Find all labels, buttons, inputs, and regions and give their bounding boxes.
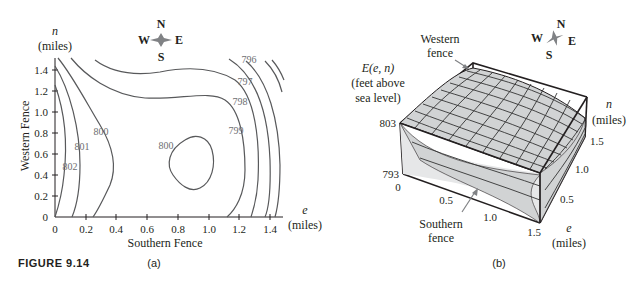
svg-text:W: W xyxy=(531,31,543,45)
n-tick-label: 0.5 xyxy=(560,193,574,205)
x-axis-title: Southern Fence xyxy=(128,236,203,250)
n-unit: (miles) xyxy=(592,113,626,127)
svg-text:S: S xyxy=(546,48,553,62)
x-variable: e xyxy=(302,203,308,217)
e-variable: e xyxy=(566,221,572,235)
contour-label-798: 798 xyxy=(233,96,248,107)
x-tick-label: 0.6 xyxy=(140,223,154,235)
x-tick-label: 1.2 xyxy=(232,223,246,235)
panel-b-label: (b) xyxy=(492,257,505,269)
svg-text:W: W xyxy=(138,33,150,47)
western-fence-label-line2: fence xyxy=(427,46,453,60)
y-tick-label: 1.4 xyxy=(34,64,48,76)
z-tick-max: 803 xyxy=(380,117,397,129)
svg-text:N: N xyxy=(157,17,166,31)
contour-label-796: 796 xyxy=(242,54,257,65)
svg-text:E: E xyxy=(568,34,576,48)
western-fence-label: Western xyxy=(420,32,459,46)
surface-plot: E(e, n) (feet above sea level) 803 793 0… xyxy=(351,17,626,250)
n-tick-label: 1.5 xyxy=(590,135,604,147)
compass-rose-icon: N S W E xyxy=(531,17,576,62)
y-tick-label: 0.4 xyxy=(34,169,48,181)
contour-798 xyxy=(95,60,258,217)
svg-text:S: S xyxy=(158,50,165,64)
contour-800-left xyxy=(58,58,114,217)
e-tick-label: 1.0 xyxy=(483,211,497,223)
y-tick-label: 0 xyxy=(43,211,49,223)
contour-799-main xyxy=(71,58,245,217)
z-axis-title: E(e, n) xyxy=(361,61,395,75)
figure-label: FIGURE 9.14 xyxy=(18,257,90,269)
contour-label-797: 797 xyxy=(238,76,253,87)
y-variable: n xyxy=(52,24,58,38)
southern-fence-label: Southern xyxy=(419,217,462,231)
z-tick-min: 793 xyxy=(383,168,400,180)
z-axis-title-line3: sea level) xyxy=(355,91,401,105)
contour-795-partial xyxy=(265,61,282,92)
x-tick-label: 1.0 xyxy=(202,223,216,235)
y-axis-title: Western Fence xyxy=(18,101,32,172)
origin-label: 0 xyxy=(395,181,401,193)
contour-plot: 0 0.2 0.4 0.6 0.8 1.0 1.2 1.4 0 0.2 0.4 … xyxy=(18,17,322,250)
contour-800-loop xyxy=(169,136,213,189)
y-tick-label: 0.2 xyxy=(34,190,48,202)
svg-text:N: N xyxy=(557,17,566,31)
x-tick-label: 0.2 xyxy=(79,223,93,235)
contour-label-800-loop: 800 xyxy=(159,140,174,151)
contour-802 xyxy=(55,85,66,217)
y-tick-label: 0.6 xyxy=(34,148,48,160)
n-tick-label: 1.0 xyxy=(575,163,589,175)
x-tick-label: 0.8 xyxy=(171,223,185,235)
southern-fence-label-line2: fence xyxy=(428,231,454,245)
contour-label-800: 800 xyxy=(94,126,109,137)
figure-canvas: 0 0.2 0.4 0.6 0.8 1.0 1.2 1.4 0 0.2 0.4 … xyxy=(0,0,643,286)
x-tick-label: 0.4 xyxy=(109,223,123,235)
y-tick-label: 0.8 xyxy=(34,127,48,139)
n-variable: n xyxy=(606,97,612,111)
e-tick-label: 1.5 xyxy=(527,226,541,238)
e-unit: (miles) xyxy=(552,236,586,250)
panel-a-label: (a) xyxy=(147,257,160,269)
x-tick-label: 0 xyxy=(52,223,58,235)
contour-label-801: 801 xyxy=(75,141,90,152)
y-tick-label: 1.0 xyxy=(34,106,48,118)
contour-label-799: 799 xyxy=(229,125,244,136)
svg-text:E: E xyxy=(175,33,183,47)
y-tick-label: 1.2 xyxy=(34,85,48,97)
e-tick-label: 0.5 xyxy=(439,194,453,206)
z-axis-title-line2: (feet above xyxy=(351,76,405,90)
y-unit: (miles) xyxy=(38,39,72,53)
x-unit: (miles) xyxy=(288,218,322,232)
contour-label-802: 802 xyxy=(63,161,78,172)
contour-794-partial xyxy=(272,60,284,80)
x-tick-label: 1.4 xyxy=(263,223,277,235)
compass-rose-icon: N S W E xyxy=(138,17,183,64)
